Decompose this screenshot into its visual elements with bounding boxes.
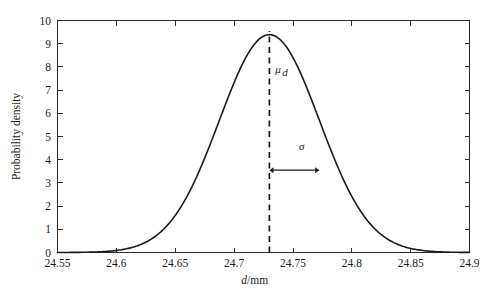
plot-frame: [58, 21, 470, 253]
y-axis-ticks: [58, 21, 63, 253]
chart-figure: 24.55 24.6 24.65 24.7 24.75 24.8 24.85 2…: [0, 0, 496, 294]
y-tick-label: 6: [45, 107, 51, 119]
y-tick-label: 9: [45, 38, 51, 50]
x-tick-label: 24.8: [342, 257, 362, 269]
y-tick-label: 3: [45, 177, 51, 189]
y-tick-label: 1: [45, 223, 51, 235]
x-tick-label: 24.55: [45, 257, 71, 269]
y-tick-label: 2: [45, 200, 51, 212]
x-tick-label: 24.85: [398, 257, 424, 269]
x-axis-top-ticks: [58, 21, 470, 26]
x-tick-label: 24.75: [280, 257, 306, 269]
arrowhead-right: [315, 167, 319, 173]
sigma-label: σ: [299, 140, 305, 152]
y-axis-title: Probability density: [10, 93, 23, 180]
y-tick-label: 10: [40, 15, 52, 27]
y-tick-label: 8: [45, 61, 51, 73]
mean-label: μ d: [274, 63, 288, 78]
sigma-double-arrow: [269, 167, 319, 173]
y-tick-labels: 0 1 2 3 4 5 6 7 8 9 10: [40, 15, 52, 259]
y-tick-label: 7: [45, 84, 51, 96]
density-curve: [58, 35, 470, 253]
x-tick-label: 24.65: [162, 257, 188, 269]
y-tick-label: 0: [45, 247, 51, 259]
probability-density-chart: 24.55 24.6 24.65 24.7 24.75 24.8 24.85 2…: [0, 0, 496, 294]
y-tick-label: 5: [45, 131, 51, 143]
x-tick-label: 24.9: [459, 257, 479, 269]
mean-label-symbol: μ: [274, 63, 281, 75]
x-axis-title: d /mm: [241, 274, 268, 286]
x-tick-label: 24.6: [106, 257, 126, 269]
x-tick-labels: 24.55 24.6 24.65 24.7 24.75 24.8 24.85 2…: [45, 257, 480, 269]
x-axis-title-units: /mm: [247, 274, 268, 286]
y-tick-label: 4: [45, 154, 51, 166]
y-axis-right-ticks: [465, 21, 470, 253]
x-tick-label: 24.7: [224, 257, 244, 269]
mean-label-subscript: d: [282, 66, 288, 78]
